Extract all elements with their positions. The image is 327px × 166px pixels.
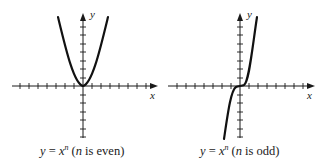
- caption-even: y = xn (n is even): [40, 143, 124, 159]
- caption-paren-close: ): [275, 144, 279, 158]
- caption-lhs: y: [40, 144, 46, 158]
- caption-paren-close: ): [120, 144, 124, 158]
- caption-eq: =: [49, 144, 56, 158]
- x-axis-label: x: [306, 89, 312, 101]
- caption-var: n: [76, 144, 82, 158]
- y-axis-label: y: [246, 8, 252, 20]
- caption-exponent: n: [224, 143, 228, 152]
- y-axis-arrow-icon: [80, 13, 86, 21]
- graph-even: y x: [12, 8, 158, 138]
- caption-var: n: [236, 144, 242, 158]
- caption-lhs: y: [200, 144, 206, 158]
- caption-condition: is even: [85, 144, 120, 158]
- caption-condition: is odd: [245, 144, 275, 158]
- x-axis-label: x: [149, 89, 155, 101]
- y-axis-label: y: [89, 8, 95, 20]
- caption-odd: y = xn (n is odd): [200, 143, 280, 159]
- graph-odd: y x: [168, 8, 315, 139]
- caption-exponent: n: [64, 143, 68, 152]
- power-function-graphs: y x: [0, 0, 327, 166]
- y-axis-arrow-icon: [237, 13, 243, 21]
- caption-eq: =: [209, 144, 216, 158]
